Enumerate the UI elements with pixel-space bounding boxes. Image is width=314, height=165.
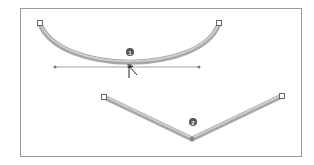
- anchor-point-start: [38, 21, 43, 26]
- diagram-frame: [21, 9, 302, 157]
- callout-2: 2: [189, 118, 197, 126]
- direction-handle-left: [54, 66, 57, 69]
- direction-handle-right: [198, 66, 201, 69]
- anchor-point-v-start: [102, 95, 107, 100]
- anchor-point-diagram: 1 2: [0, 0, 314, 165]
- callout-1: 1: [126, 48, 134, 56]
- anchor-point-end: [217, 21, 222, 26]
- anchor-point-v-end: [280, 94, 285, 99]
- corner-anchor-point: [190, 137, 194, 141]
